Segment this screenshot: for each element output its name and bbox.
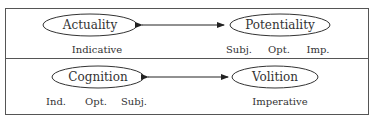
potentiality-label: Potentiality [245, 18, 315, 32]
mood-label: Subj. [226, 44, 252, 55]
mood-label: Indicative [72, 44, 122, 55]
cognition-label: Cognition [68, 70, 127, 84]
actuality-label: Actuality [63, 18, 117, 32]
volition-label: Volition [252, 70, 298, 84]
mood-label: Imp. [306, 44, 329, 55]
mood-label: Opt. [85, 96, 107, 107]
mood-label: Imperative [252, 96, 307, 107]
mood-label: Ind. [46, 96, 66, 107]
mood-label: Opt. [268, 44, 290, 55]
mood-label: Subj. [121, 96, 147, 107]
